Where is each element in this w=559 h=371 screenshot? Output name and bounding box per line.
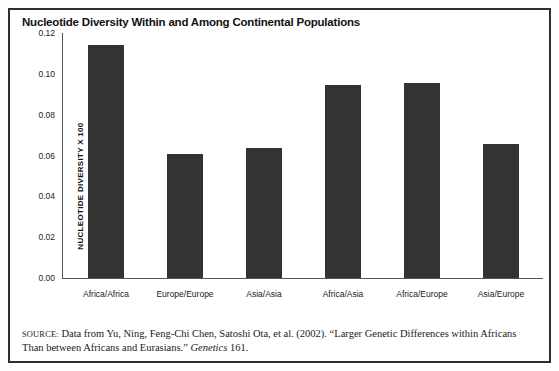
y-tick-label: 0.04	[38, 191, 55, 201]
source-text-part2: 161.	[227, 342, 248, 353]
y-tick-label: 0.00	[38, 273, 55, 283]
bar[interactable]	[88, 45, 124, 278]
x-tick-label: Asia/Asia	[246, 289, 281, 299]
x-tick-label: Asia/Europe	[478, 289, 524, 299]
x-axis-line	[62, 278, 543, 279]
bar[interactable]	[246, 148, 282, 278]
x-tick-label: Africa/Asia	[323, 289, 364, 299]
x-tick-label: Africa/Europe	[396, 289, 448, 299]
y-tick-label: 0.08	[38, 110, 55, 120]
source-note: SOURCE: Data from Yu, Ning, Feng-Chi Che…	[22, 327, 527, 355]
bar-group[interactable]: Europe/Europe	[167, 33, 203, 278]
bar[interactable]	[325, 85, 361, 278]
bar[interactable]	[167, 154, 203, 278]
bar[interactable]	[404, 83, 440, 278]
bar-group[interactable]: Africa/Europe	[404, 33, 440, 278]
bar-group[interactable]: Asia/Asia	[246, 33, 282, 278]
bar-group[interactable]: Africa/Asia	[325, 33, 361, 278]
y-tick-label: 0.12	[38, 28, 55, 38]
source-label: SOURCE:	[22, 330, 59, 339]
source-text-part1: Data from Yu, Ning, Feng-Chi Chen, Satos…	[22, 328, 516, 353]
y-tick-label: 0.10	[38, 69, 55, 79]
figure-panel: Nucleotide Diversity Within and Among Co…	[0, 0, 559, 371]
bar-series: Africa/AfricaEurope/EuropeAsia/AsiaAfric…	[62, 33, 543, 278]
bar-group[interactable]: Asia/Europe	[483, 33, 519, 278]
chart-title: Nucleotide Diversity Within and Among Co…	[22, 16, 522, 28]
y-tick-label: 0.02	[38, 232, 55, 242]
bar[interactable]	[483, 144, 519, 278]
x-tick-label: Europe/Europe	[156, 289, 213, 299]
y-tick-label: 0.06	[38, 151, 55, 161]
source-journal-name: Genetics	[191, 342, 228, 353]
bar-group[interactable]: Africa/Africa	[88, 33, 124, 278]
plot-area: 0.000.020.040.060.080.100.12 Africa/Afri…	[62, 33, 543, 279]
x-tick-label: Africa/Africa	[83, 289, 129, 299]
